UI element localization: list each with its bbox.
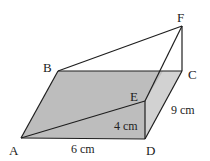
vertex-label-b: B	[43, 60, 52, 75]
vertex-label-c: C	[188, 67, 197, 82]
vertex-label-f: F	[177, 10, 184, 25]
vertex-label-d: D	[146, 143, 155, 158]
dimension-dc: 9 cm	[171, 103, 195, 117]
dimension-ed: 4 cm	[114, 119, 138, 133]
vertex-label-a: A	[9, 143, 19, 158]
dimension-ad: 6 cm	[71, 142, 95, 156]
wedge-prism-diagram: A B C D E F 6 cm 4 cm 9 cm	[0, 0, 210, 161]
vertex-label-e: E	[130, 89, 138, 104]
